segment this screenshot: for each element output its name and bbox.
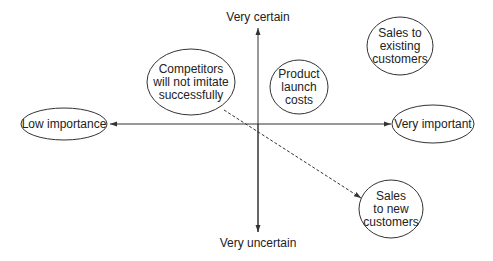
axis-top-label: Very certain: [218, 10, 298, 24]
axis-left-label: Low importance: [21, 117, 107, 131]
dashed-connection: [224, 110, 361, 198]
axis-right-label: Very important: [392, 117, 474, 131]
axis-bottom-label: Very uncertain: [212, 236, 304, 250]
node-sales-existing: Sales to existing customers: [367, 17, 433, 75]
node-product-launch-costs: Product launch costs: [270, 60, 328, 114]
node-sales-new: Sales to new customers: [359, 180, 423, 238]
node-competitors: Competitors will not imitate successfull…: [147, 49, 235, 115]
